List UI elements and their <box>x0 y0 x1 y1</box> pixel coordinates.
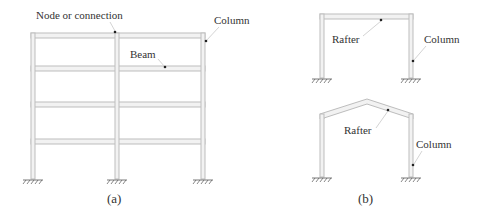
column-middle <box>115 33 119 179</box>
label-column-a: Column <box>214 14 250 26</box>
node-marker-icon <box>114 31 117 34</box>
portal-frame-flat: Rafter Column <box>312 14 460 83</box>
caption-b: (b) <box>358 191 373 206</box>
fixed-support-icon <box>107 180 127 184</box>
label-column-flat: Column <box>424 33 460 45</box>
fixed-support-icon <box>312 178 332 182</box>
column-marker-icon <box>205 40 208 43</box>
rafter-marker-icon <box>387 109 390 112</box>
column-left <box>320 14 324 78</box>
label-rafter-gabled: Rafter <box>344 124 372 136</box>
column-left <box>320 114 324 177</box>
fixed-support-icon <box>401 79 421 83</box>
multistorey-frame: Node or connection Column Beam (a) <box>23 9 250 206</box>
column-marker-icon <box>412 164 415 167</box>
column-right <box>201 33 205 179</box>
column-right <box>409 14 413 78</box>
fixed-support-icon <box>401 178 421 182</box>
label-beam: Beam <box>130 48 156 60</box>
column-left <box>31 33 35 179</box>
column-marker-icon <box>412 60 415 63</box>
rafter-gabled <box>320 99 413 119</box>
fixed-support-icon <box>23 180 43 184</box>
column-right <box>409 114 413 177</box>
caption-a: (a) <box>107 191 121 206</box>
fixed-support-icon <box>312 79 332 83</box>
rafter-marker-icon <box>380 19 383 22</box>
fixed-support-icon <box>193 180 213 184</box>
beam-marker-icon <box>164 66 167 69</box>
label-rafter-flat: Rafter <box>332 33 360 45</box>
label-column-gabled: Column <box>416 138 452 150</box>
label-node: Node or connection <box>36 9 123 21</box>
structural-frames-diagram: Node or connection Column Beam (a) Rafte… <box>0 0 479 216</box>
portal-frame-gabled: Rafter Column (b) <box>312 99 452 206</box>
rafter-flat <box>320 14 413 19</box>
